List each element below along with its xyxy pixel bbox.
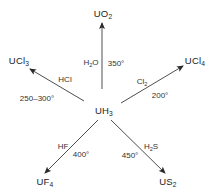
reagent-cl2-subscript: 2 bbox=[144, 81, 147, 87]
compound-ucl3-base: UCl bbox=[9, 55, 25, 66]
arrow-to-uf4 bbox=[45, 120, 98, 173]
temperature-uo2: 350° bbox=[108, 60, 125, 68]
uranium-hydride-reaction-diagram: UH3 UO2 UCl3 UCl4 UF4 US2 H2O 350° HCl 2… bbox=[0, 0, 212, 196]
temperature-us2: 450° bbox=[122, 152, 139, 160]
compound-uh3-base: UH bbox=[95, 105, 109, 116]
compound-us2-subscript: 2 bbox=[173, 181, 177, 188]
compound-us2-base: US bbox=[159, 176, 173, 187]
reagent-hcl-base: HCl bbox=[58, 75, 71, 84]
compound-us2: US2 bbox=[159, 177, 177, 189]
compound-uf4: UF4 bbox=[37, 177, 54, 189]
compound-uo2-subscript: 2 bbox=[108, 13, 112, 20]
compound-ucl4-base: UCl bbox=[185, 55, 201, 66]
reagent-h2s: H2S bbox=[144, 143, 158, 153]
compound-uh3: UH3 bbox=[95, 106, 113, 118]
reagent-cl2-base: Cl bbox=[137, 77, 145, 86]
reagent-h2s-tail: S bbox=[153, 142, 158, 151]
temperature-ucl4: 200° bbox=[152, 92, 169, 100]
compound-ucl4: UCl4 bbox=[185, 56, 205, 68]
reagent-hf-base: HF bbox=[58, 142, 69, 151]
reagent-cl2: Cl2 bbox=[137, 78, 148, 88]
compound-ucl3: UCl3 bbox=[9, 56, 29, 68]
reagent-h2o-tail: O bbox=[92, 58, 98, 67]
temperature-ucl3: 250–300° bbox=[20, 95, 54, 103]
compound-uf4-subscript: 4 bbox=[50, 181, 54, 188]
reagent-hcl: HCl bbox=[58, 76, 71, 84]
reagent-hf: HF bbox=[58, 143, 69, 151]
reagent-h2o: H2O bbox=[83, 59, 98, 69]
compound-ucl4-subscript: 4 bbox=[201, 60, 205, 67]
compound-uh3-subscript: 3 bbox=[109, 110, 113, 117]
compound-uo2: UO2 bbox=[94, 9, 113, 21]
compound-uf4-base: UF bbox=[37, 176, 50, 187]
compound-uo2-base: UO bbox=[94, 8, 109, 19]
compound-ucl3-subscript: 3 bbox=[25, 60, 29, 67]
temperature-uf4: 400° bbox=[73, 151, 90, 159]
